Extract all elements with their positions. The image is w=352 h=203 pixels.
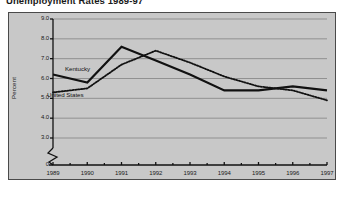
x-tick-label: 1990 (70, 170, 104, 176)
x-tick-label: 1997 (310, 170, 344, 176)
y-tick-label: 0 (27, 161, 49, 167)
y-tick-label: 8.0 (27, 35, 49, 41)
x-tick-label: 1995 (242, 170, 276, 176)
x-tick-label: 1993 (173, 170, 207, 176)
x-tick-label: 1989 (36, 170, 70, 176)
y-tick-label: 7.0 (27, 55, 49, 61)
chart-screenshot: Unemployment Rates 1989-97 Percent 9.08.… (0, 0, 352, 203)
x-axis (49, 162, 327, 165)
y-tick-label: 9.0 (27, 15, 49, 21)
data-series (53, 47, 327, 101)
y-tick-label: 6.0 (27, 75, 49, 81)
series-label-kentucky: Kentucky (65, 65, 90, 72)
x-tick-label: 1992 (139, 170, 173, 176)
x-tick-label: 1994 (207, 170, 241, 176)
y-tick-label: 4.0 (27, 114, 49, 120)
chart-title: Unemployment Rates 1989-97 (6, 0, 143, 6)
series-label-united-states: United States (47, 91, 84, 98)
chart-panel: Percent 9.08.07.06.05.04.03.00 198919901… (8, 12, 336, 180)
y-tick-label: 5.0 (27, 94, 49, 100)
x-tick-label: 1991 (105, 170, 139, 176)
y-tick-label: 3.0 (27, 134, 49, 140)
gridlines (53, 19, 327, 138)
x-tick-label: 1996 (276, 170, 310, 176)
